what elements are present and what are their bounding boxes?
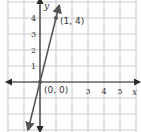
series-line-negative — [28, 82, 40, 130]
x-tick-label: 4 — [101, 87, 106, 96]
data-point — [38, 80, 42, 84]
data-point-label: (0, 0) — [44, 85, 68, 95]
y-tick-label: 3 — [31, 30, 36, 39]
points: (0, 0)(1, 4) — [38, 16, 84, 95]
data-point-label: (1, 4) — [60, 16, 84, 26]
coordinate-plane: xy3451234 (0, 0)(1, 4) — [0, 0, 141, 132]
y-tick-label: 2 — [31, 46, 36, 55]
y-tick-label: 1 — [31, 62, 36, 71]
y-tick-label: 4 — [31, 14, 36, 23]
y-axis-label: y — [43, 1, 50, 11]
x-tick-label: 3 — [85, 87, 90, 96]
data-point — [54, 16, 58, 20]
x-tick-label: 5 — [117, 87, 122, 96]
x-axis-label: x — [132, 87, 137, 97]
